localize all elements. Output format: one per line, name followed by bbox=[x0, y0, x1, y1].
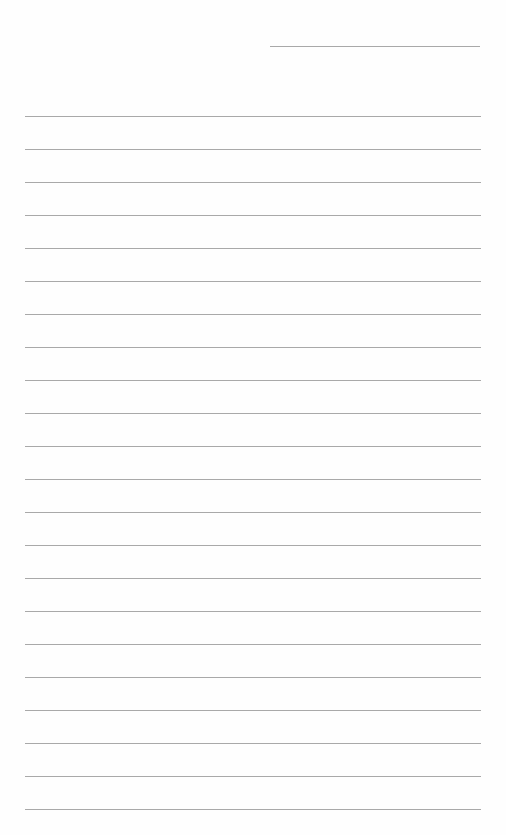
ruled-line bbox=[25, 644, 481, 645]
ruled-line bbox=[25, 182, 481, 183]
ruled-line bbox=[25, 710, 481, 711]
ruled-line bbox=[25, 380, 481, 381]
ruled-line bbox=[25, 512, 481, 513]
header-write-in-line bbox=[270, 46, 480, 47]
ruled-line bbox=[25, 248, 481, 249]
ruled-line bbox=[25, 743, 481, 744]
ruled-line bbox=[25, 578, 481, 579]
ruled-line bbox=[25, 215, 481, 216]
ruled-line bbox=[25, 611, 481, 612]
ruled-line bbox=[25, 446, 481, 447]
ruled-line bbox=[25, 281, 481, 282]
ruled-line bbox=[25, 116, 481, 117]
ruled-line bbox=[25, 347, 481, 348]
ruled-line bbox=[25, 809, 481, 810]
ruled-line bbox=[25, 314, 481, 315]
ruled-line bbox=[25, 479, 481, 480]
ruled-line bbox=[25, 677, 481, 678]
ruled-line bbox=[25, 776, 481, 777]
lined-paper-page bbox=[0, 0, 506, 835]
ruled-line bbox=[25, 149, 481, 150]
ruled-line bbox=[25, 545, 481, 546]
ruled-line bbox=[25, 413, 481, 414]
